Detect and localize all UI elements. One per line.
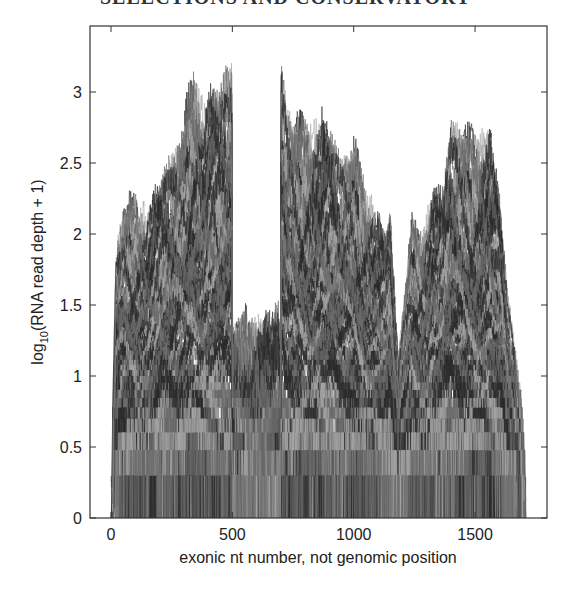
sample-traces [111,63,526,518]
y-tick-label: 0.5 [60,439,82,456]
x-tick-label: 1500 [457,526,493,543]
y-tick-label: 2.5 [60,155,82,172]
y-tick-label: 1 [73,368,82,385]
x-tick-label: 1000 [336,526,372,543]
y-tick-label: 3 [73,84,82,101]
x-tick-label: 0 [107,526,116,543]
x-tick-label: 500 [219,526,246,543]
y-tick-label: 1.5 [60,297,82,314]
y-tick-label: 2 [73,226,82,243]
rna-depth-chart: 050010001500 00.511.522.53 exonic nt num… [0,0,563,589]
y-axis-label: log10(RNA read depth + 1) [29,179,50,364]
x-axis-label: exonic nt number, not genomic position [179,549,457,566]
y-tick-label: 0 [73,510,82,527]
